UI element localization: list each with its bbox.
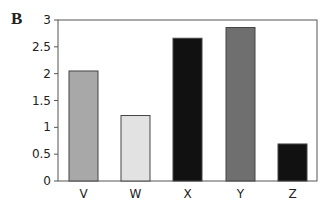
x-tick-label: V [79,187,88,201]
bars [69,28,307,181]
x-tick-label: X [183,187,191,201]
x-tick-label: Y [236,187,245,201]
y-tick-label: 1.5 [32,94,51,108]
y-axis: 00.511.522.53 [32,13,58,188]
y-tick-label: 0.5 [32,147,51,161]
y-tick-label: 2.5 [32,40,51,54]
y-tick-label: 0 [43,174,51,188]
x-tick-label: Z [288,187,296,201]
x-axis: VWXYZ [79,187,296,201]
y-tick-label: 2 [43,67,51,81]
bar-z [278,144,307,181]
x-tick-label: W [130,187,142,201]
bar-y [226,28,255,181]
bar-w [121,116,150,181]
bar-chart: 00.511.522.53 VWXYZ [0,0,326,202]
bar-x [173,38,202,181]
y-tick-label: 3 [43,13,51,27]
y-tick-label: 1 [43,120,51,134]
bar-v [69,71,98,181]
